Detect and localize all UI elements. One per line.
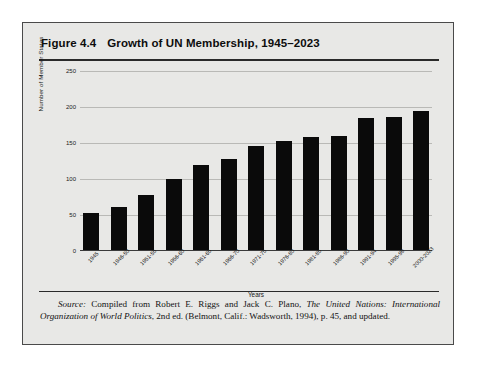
source-note: Source: Compiled from Robert E. Riggs an… (40, 299, 440, 322)
x-tick-slot: 1991-94 (358, 253, 374, 293)
bar (386, 117, 402, 250)
x-tick-slot: 1945 (83, 253, 99, 293)
chart-area: Number of Member States 050100150200250 … (39, 63, 439, 281)
bar (413, 111, 429, 250)
bar (358, 118, 374, 250)
figure-number: Figure 4.4 (41, 37, 96, 49)
x-axis-tick-labels: 19451946-501951-551956-601961-651966-701… (80, 253, 432, 293)
x-axis-tick-label: 1945 (87, 251, 100, 264)
bar-slot (138, 71, 154, 250)
bar (276, 141, 292, 250)
bar (193, 165, 209, 250)
bar (138, 195, 154, 250)
bar (221, 159, 237, 250)
x-tick-slot: 1961-65 (193, 253, 209, 293)
bar (248, 146, 264, 250)
bar (111, 207, 127, 250)
bar-slot (83, 71, 99, 250)
bar (331, 136, 347, 250)
bar (166, 179, 182, 250)
y-axis-tick-label: 0 (73, 248, 76, 254)
x-tick-slot: 1956-60 (166, 253, 182, 293)
bar-slot (166, 71, 182, 250)
source-text-2: , 2nd ed. (Belmont, Calif.: Wadsworth, 1… (152, 311, 390, 321)
x-tick-slot: 1971-75 (248, 253, 264, 293)
x-tick-slot: 1995-99 (386, 253, 402, 293)
note-divider (39, 291, 439, 292)
y-axis-tick-label: 50 (69, 212, 76, 218)
x-axis-line (80, 250, 432, 251)
x-tick-slot: 1986-90 (331, 253, 347, 293)
bar-slot (111, 71, 127, 250)
figure-title: Figure 4.4Growth of UN Membership, 1945–… (41, 37, 320, 49)
bar-slot (221, 71, 237, 250)
y-axis-tick-label: 100 (66, 176, 76, 182)
bar-series (80, 71, 432, 250)
bar-slot (276, 71, 292, 250)
x-tick-slot: 1966-70 (221, 253, 237, 293)
bar-slot (303, 71, 319, 250)
title-divider (39, 59, 439, 61)
bar-slot (248, 71, 264, 250)
bar-slot (358, 71, 374, 250)
bar (83, 213, 99, 250)
plot-region: 050100150200250 (80, 71, 432, 251)
bar (303, 137, 319, 250)
x-tick-slot: 1976-80 (276, 253, 292, 293)
bar-slot (331, 71, 347, 250)
bar-slot (193, 71, 209, 250)
x-tick-slot: 2000-2023 (413, 253, 429, 293)
x-tick-slot: 1981-85 (303, 253, 319, 293)
y-axis-tick-label: 150 (66, 140, 76, 146)
x-tick-slot: 1946-50 (111, 253, 127, 293)
bar-slot (413, 71, 429, 250)
bar-slot (386, 71, 402, 250)
y-axis-tick-label: 200 (66, 104, 76, 110)
figure-panel: Figure 4.4Growth of UN Membership, 1945–… (22, 22, 454, 345)
source-label: Source: (58, 299, 86, 309)
x-tick-slot: 1951-55 (138, 253, 154, 293)
y-axis-title: Number of Member States (37, 19, 44, 129)
source-text-1: Compiled from Robert E. Riggs and Jack C… (86, 299, 307, 309)
y-axis-tick-label: 250 (66, 68, 76, 74)
figure-title-text: Growth of UN Membership, 1945–2023 (107, 37, 319, 49)
